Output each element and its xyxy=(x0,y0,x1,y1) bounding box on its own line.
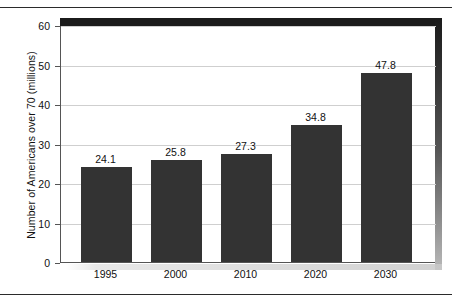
y-tick-label-60: 60 xyxy=(14,20,50,32)
x-tick-label-2000: 2000 xyxy=(150,268,201,280)
plot-frame-right-edge xyxy=(435,18,442,270)
bar-value-label-2030: 47.8 xyxy=(360,59,411,71)
x-tick-label-2020: 2020 xyxy=(290,268,341,280)
bar-chart-figure: Number of Americans over 70 (millions) 0… xyxy=(0,0,452,301)
gridline-60 xyxy=(61,26,436,27)
bar-2030 xyxy=(361,73,412,262)
bar-2000 xyxy=(151,160,202,262)
bar-value-label-2010: 27.3 xyxy=(220,140,271,152)
bar-2020 xyxy=(291,125,342,262)
bar-value-label-2020: 34.8 xyxy=(290,111,341,123)
y-tick-mark-0 xyxy=(55,263,60,264)
y-tick-label-0: 0 xyxy=(14,257,50,269)
y-tick-label-20: 20 xyxy=(14,178,50,190)
top-divider-rule xyxy=(0,7,452,8)
bottom-divider-rule xyxy=(0,294,452,295)
x-tick-label-2030: 2030 xyxy=(360,268,411,280)
y-tick-label-50: 50 xyxy=(14,60,50,72)
y-tick-label-40: 40 xyxy=(14,99,50,111)
bar-value-label-1995: 24.1 xyxy=(80,153,131,165)
x-tick-label-2010: 2010 xyxy=(220,268,271,280)
y-tick-label-30: 30 xyxy=(14,139,50,151)
plot-frame-top-edge xyxy=(60,18,440,26)
bar-value-label-2000: 25.8 xyxy=(150,146,201,158)
x-tick-label-1995: 1995 xyxy=(80,268,131,280)
bar-1995 xyxy=(81,167,132,262)
y-tick-label-10: 10 xyxy=(14,218,50,230)
bar-2010 xyxy=(221,154,272,262)
